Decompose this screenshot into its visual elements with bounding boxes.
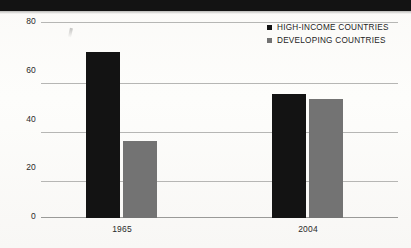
square-swatch-dark-icon xyxy=(267,25,272,30)
y-tick-label: 80 xyxy=(2,16,36,26)
legend-item-developing: DEVELOPING COUNTRIES xyxy=(267,35,389,46)
banner-shadow xyxy=(0,11,411,14)
bar-developing-2004 xyxy=(309,99,343,218)
y-tick-label: 40 xyxy=(2,114,36,124)
chart-figure: 80 60 40 20 0 1965 2004 HIGH-INCOME COUN… xyxy=(0,0,411,248)
chart-legend: HIGH-INCOME COUNTRIES DEVELOPING COUNTRI… xyxy=(267,22,389,48)
x-tick-label-1965: 1965 xyxy=(86,224,158,234)
page-top-banner xyxy=(0,0,411,11)
y-tick-label: 20 xyxy=(2,162,36,172)
bar-developing-1965 xyxy=(123,141,157,218)
y-tick-label: 60 xyxy=(2,65,36,75)
legend-label: HIGH-INCOME COUNTRIES xyxy=(277,23,389,32)
legend-item-high-income: HIGH-INCOME COUNTRIES xyxy=(267,22,389,33)
square-swatch-gray-icon xyxy=(267,38,272,43)
legend-label: DEVELOPING COUNTRIES xyxy=(277,36,386,45)
x-tick-label-2004: 2004 xyxy=(272,224,344,234)
y-tick-label: 0 xyxy=(2,211,36,221)
bar-high-income-1965 xyxy=(86,52,120,218)
bar-high-income-2004 xyxy=(272,94,306,218)
y-axis-ticks: 80 60 40 20 0 xyxy=(0,22,36,218)
plot-area xyxy=(41,22,398,218)
